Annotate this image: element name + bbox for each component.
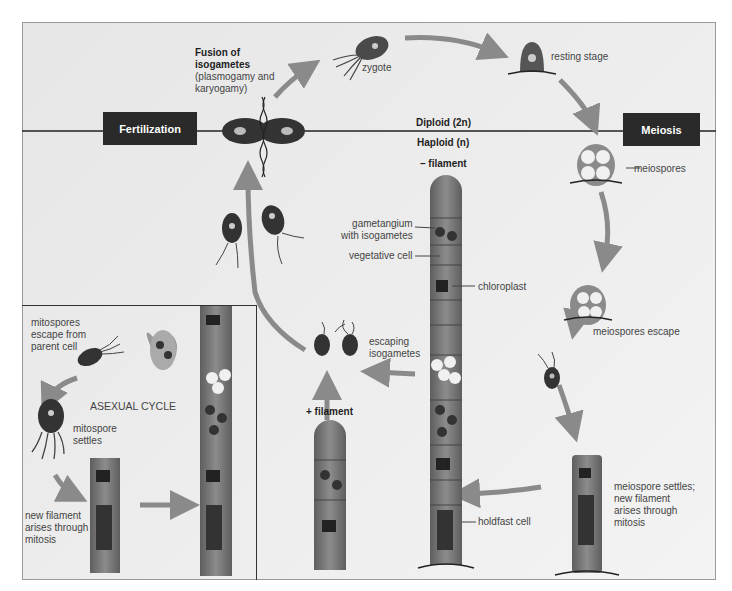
- isogamete-pair-escaping: [314, 320, 358, 356]
- mitospores-escape-line3: parent cell: [31, 341, 86, 353]
- mitospores-escape-line1: mitospores: [31, 317, 86, 329]
- fusion-title-line1: Fusion of: [195, 47, 274, 59]
- mitospore-settles-line2: settles: [73, 435, 117, 447]
- haploid-label: Haploid (n): [417, 137, 469, 149]
- zygote-label: zygote: [362, 62, 391, 74]
- escaping-line1: escaping: [369, 336, 420, 348]
- swimming-meiospore: [538, 352, 560, 389]
- asexual-cycle-title: ASEXUAL CYCLE: [90, 400, 176, 412]
- meiospores-escape-cell: [564, 285, 612, 325]
- escaping-line2: isogametes: [369, 348, 420, 360]
- holdfast-cell-label: holdfast cell: [478, 516, 531, 528]
- fusing-isogametes: [222, 97, 305, 177]
- gametangium-line2: with isogametes: [341, 230, 413, 242]
- meiospore-settles-caption: meiospore settles; new filament arises t…: [614, 481, 695, 529]
- meiospore-settles-line1: meiospore settles;: [614, 481, 695, 493]
- meiospores-label: meiospores: [634, 163, 686, 175]
- meiospore-settles-line2: new filament: [614, 493, 695, 505]
- fertilization-box: Fertilization: [103, 112, 197, 145]
- meiospore-settles-line4: mitosis: [614, 517, 695, 529]
- fusion-sub-line2: karyogamy): [195, 83, 274, 95]
- mitospore-settles-caption: mitospore settles: [73, 423, 117, 447]
- isogamete-pair-upper: [216, 203, 304, 268]
- minus-filament: [415, 175, 476, 568]
- mitospores-escape-caption: mitospores escape from parent cell: [31, 317, 86, 353]
- meiospore-settles-line3: arises through: [614, 505, 695, 517]
- meiospores-escape-label: meiospores escape: [593, 326, 680, 338]
- plus-filament: [314, 420, 346, 570]
- new-filament-line3: mitosis: [25, 534, 88, 546]
- minus-filament-label: – filament: [420, 158, 467, 170]
- vegetative-cell-label: vegetative cell: [349, 250, 412, 262]
- escaping-isogametes-caption: escaping isogametes: [369, 336, 420, 360]
- meiospores-cell: [570, 144, 640, 186]
- new-filament-line2: arises through: [25, 522, 88, 534]
- mitospores-escape-line2: escape from: [31, 329, 86, 341]
- resting-stage-label: resting stage: [551, 51, 608, 63]
- mitospore-settles-line1: mitospore: [73, 423, 117, 435]
- fusion-caption: Fusion of isogametes (plasmogamy and kar…: [195, 47, 274, 95]
- chloroplast-label: chloroplast: [478, 281, 526, 293]
- new-filament-caption: new filament arises through mitosis: [25, 510, 88, 546]
- gametangium-line1: gametangium: [341, 218, 413, 230]
- settled-meiospore-filament: [555, 455, 619, 575]
- gametangium-caption: gametangium with isogametes: [341, 218, 413, 242]
- meiosis-box: Meiosis: [623, 113, 700, 146]
- fusion-title-line2: isogametes: [195, 59, 274, 71]
- diploid-label: Diploid (2n): [416, 117, 471, 129]
- new-filament-line1: new filament: [25, 510, 88, 522]
- fusion-sub-line1: (plasmogamy and: [195, 71, 274, 83]
- plus-filament-label: + filament: [306, 406, 353, 418]
- resting-stage-cell: [508, 42, 556, 74]
